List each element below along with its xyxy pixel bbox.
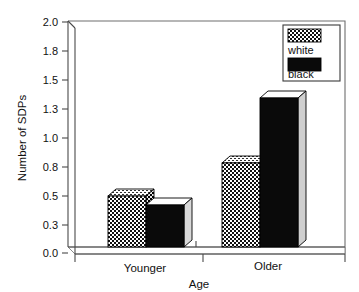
legend-label-black: black [288,68,314,80]
y-tick-label-0.5: 0.5 [43,190,58,202]
y-tick-label-0.3: 0.3 [43,219,58,231]
y-axis-ticks [62,22,68,253]
y-axis-title: Number of SDPs [16,95,28,182]
x-tick-label-younger: Younger [124,262,167,274]
chart-figure: 2.0 1.8 1.5 1.3 1.0 0.8 0.5 0.3 0.0 Numb… [0,0,359,292]
y-tick-label-0.8: 0.8 [43,161,58,173]
x-axis-title: Age [189,278,209,290]
y-tick-label-2.0: 2.0 [43,16,58,28]
y-tick-label-1.0: 1.0 [43,132,58,144]
x-tick-label-older: Older [254,260,282,272]
bar-older-black [260,91,306,247]
bar-chart-svg: 2.0 1.8 1.5 1.3 1.0 0.8 0.5 0.3 0.0 Numb… [0,0,359,292]
floor-3d [68,247,345,254]
legend: white black [283,25,340,81]
legend-swatch-white [288,29,321,42]
y-tick-label-0.0: 0.0 [43,247,58,259]
legend-label-white: white [287,44,314,56]
bar-younger-black [146,198,192,247]
y-tick-label-1.8: 1.8 [43,45,58,57]
y-tick-label-1.3: 1.3 [43,103,58,115]
y-tick-label-1.5: 1.5 [43,74,58,86]
